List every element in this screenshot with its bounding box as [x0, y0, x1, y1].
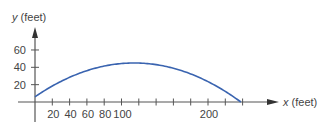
x-tick-label: 60 — [82, 108, 94, 120]
x-tick-label: 20 — [47, 108, 59, 120]
x-tick-label: 100 — [113, 108, 131, 120]
y-tick-label: 60 — [14, 44, 26, 56]
x-axis-arrow-icon — [267, 99, 279, 105]
x-tick-label: 200 — [200, 108, 218, 120]
x-tick-label: 80 — [99, 108, 111, 120]
trajectory-curve — [35, 63, 241, 102]
y-tick-label: 40 — [14, 61, 26, 73]
y-axis-label: y (feet) — [11, 11, 46, 23]
x-tick-label: 40 — [64, 108, 76, 120]
x-tick-labels: 20406080100200 — [47, 108, 218, 120]
x-axis-label: x (feet) — [282, 96, 317, 108]
y-axis-arrow-icon — [32, 27, 38, 38]
y-tick-label: 20 — [14, 79, 26, 91]
y-tick-labels: 204060 — [14, 44, 26, 91]
chart-canvas: 20406080100200 204060 y (feet) x (feet) — [0, 0, 324, 127]
